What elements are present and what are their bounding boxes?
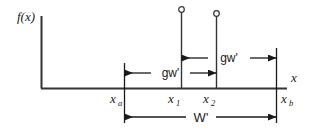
tick-label-xb-base: x xyxy=(280,91,287,106)
x-axis-label: x xyxy=(290,70,297,85)
tick-label-x2: x 2 xyxy=(202,91,216,108)
gw-upper-label: gw' xyxy=(220,51,238,65)
tick-label-x1-base: x xyxy=(167,91,174,106)
w-total-label: W' xyxy=(194,110,209,125)
drop-line-x1-group xyxy=(179,7,185,89)
drop-line-x2-group xyxy=(214,11,220,89)
tick-label-xa: x a xyxy=(109,91,122,108)
gw-lower-label: gw' xyxy=(162,66,180,80)
tick-label-xa-base: x xyxy=(109,91,116,106)
open-circle-icon xyxy=(214,11,220,17)
tick-label-x1: x 1 xyxy=(167,91,180,108)
diagram-svg: gw' gw' W' f(x) x x a x 1 x 2 xyxy=(0,0,317,131)
tick-label-x2-base: x xyxy=(202,91,209,106)
open-circle-icon xyxy=(179,7,185,13)
tick-label-xb-sub: b xyxy=(289,98,293,108)
y-axis-label: f(x) xyxy=(17,9,35,24)
dimension-gw-lower: gw' xyxy=(125,66,217,80)
dimension-w-total: W' xyxy=(125,110,277,125)
tick-label-x2-sub: 2 xyxy=(211,98,216,108)
figure-canvas: gw' gw' W' f(x) x x a x 1 x 2 xyxy=(0,0,317,131)
tick-label-xb: x b xyxy=(280,91,293,108)
dimension-gw-upper: gw' xyxy=(182,51,277,65)
tick-label-xa-sub: a xyxy=(118,98,122,108)
tick-label-x1-sub: 1 xyxy=(176,98,180,108)
